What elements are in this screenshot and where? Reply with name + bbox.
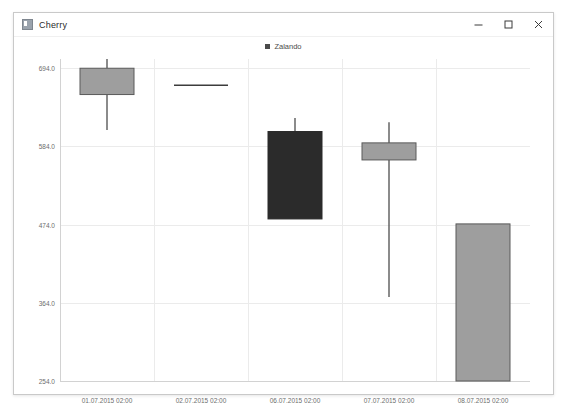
candle-body — [80, 68, 134, 94]
minimize-button[interactable] — [463, 13, 493, 36]
candle-body — [268, 132, 322, 219]
chart-legend: Zalando — [14, 42, 553, 51]
x-axis-tick-label: 01.07.2015 02:00 — [82, 397, 133, 404]
app-icon — [22, 19, 33, 30]
y-axis-labels: 694.0584.0474.0364.0254.0 — [14, 59, 60, 394]
x-axis-tick-label: 02.07.2015 02:00 — [176, 397, 227, 404]
title-bar[interactable]: Cherry — [14, 13, 553, 37]
y-axis-tick-label: 584.0 — [39, 143, 55, 150]
plot-area — [60, 59, 530, 394]
x-axis-tick-label: 06.07.2015 02:00 — [270, 397, 321, 404]
legend-swatch-zalando — [265, 44, 270, 49]
y-axis-tick-label: 474.0 — [39, 221, 55, 228]
legend-label-zalando: Zalando — [274, 42, 301, 51]
screen: Cherry Zalando 694.0584.0474.0364.025 — [0, 0, 567, 415]
candle-body — [456, 224, 510, 381]
y-axis-tick-label: 364.0 — [39, 299, 55, 306]
candle — [80, 59, 134, 130]
close-button[interactable] — [523, 13, 553, 36]
x-axis-labels: 01.07.2015 02:0002.07.2015 02:0006.07.20… — [60, 397, 530, 411]
candle — [362, 122, 416, 297]
candle — [456, 224, 510, 381]
maximize-button[interactable] — [493, 13, 523, 36]
plot-svg — [60, 59, 530, 394]
window-title: Cherry — [39, 20, 67, 30]
x-axis-tick-label: 07.07.2015 02:00 — [364, 397, 415, 404]
x-axis-labels-wrap: 01.07.2015 02:0002.07.2015 02:0006.07.20… — [14, 397, 553, 411]
window-controls — [463, 13, 553, 36]
candle — [268, 118, 322, 219]
y-axis-tick-label: 694.0 — [39, 65, 55, 72]
candlestick-chart: Zalando 694.0584.0474.0364.0254.0 01.07.… — [14, 37, 553, 394]
x-axis-tick-label: 08.07.2015 02:00 — [458, 397, 509, 404]
y-axis-tick-label: 254.0 — [39, 378, 55, 385]
candle-body — [362, 143, 416, 160]
application-window: Cherry Zalando 694.0584.0474.0364.025 — [13, 12, 554, 395]
